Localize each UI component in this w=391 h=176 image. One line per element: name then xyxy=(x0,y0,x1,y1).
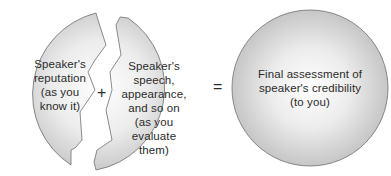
credibility-line-1: Final assessment of xyxy=(245,67,375,81)
speech-line-2: speech, xyxy=(113,73,195,87)
reputation-line-2: reputation xyxy=(20,71,100,85)
speech-line-5: (as you xyxy=(113,115,195,129)
equals-operator: = xyxy=(213,79,222,95)
reputation-line-3: (as you xyxy=(20,85,100,99)
speech-line-3: appearance, xyxy=(113,87,195,101)
credibility-line-2: speaker's credibility xyxy=(245,81,375,95)
plus-operator: + xyxy=(97,85,106,101)
speech-line-4: and so on xyxy=(113,101,195,115)
reputation-label: Speaker's reputation (as you know it) xyxy=(20,57,100,113)
speech-line-6: evaluate xyxy=(113,129,195,143)
speech-line-1: Speaker's xyxy=(113,59,195,73)
credibility-label: Final assessment of speaker's credibilit… xyxy=(245,67,375,109)
credibility-line-3: (to you) xyxy=(245,95,375,109)
speech-line-7: them) xyxy=(113,143,195,157)
speech-appearance-label: Speaker's speech, appearance, and so on … xyxy=(113,59,195,157)
reputation-line-1: Speaker's xyxy=(20,57,100,71)
reputation-line-4: know it) xyxy=(20,99,100,113)
